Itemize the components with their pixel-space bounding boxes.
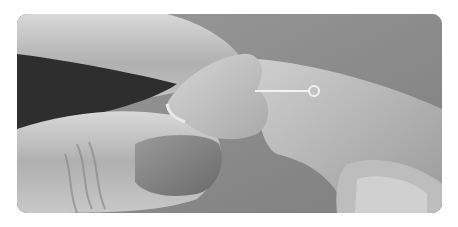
photo-illustration [17,14,442,213]
photo-hands-heart-pin [17,14,442,213]
thumbnail [135,135,222,196]
